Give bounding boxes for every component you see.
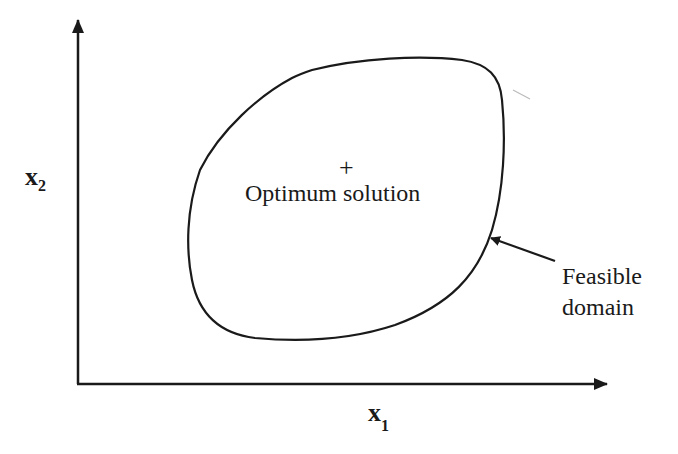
y-axis-variable: x — [25, 162, 38, 191]
x-axis-variable: x — [368, 398, 381, 427]
feasible-domain-pointer-arrow — [491, 238, 555, 261]
optimum-marker: + — [339, 153, 354, 183]
x-axis-subscript: 1 — [381, 417, 389, 434]
optimum-label: Optimum solution — [245, 180, 420, 207]
x-axis-label: x1 — [368, 398, 389, 428]
diagram-canvas — [0, 0, 678, 454]
y-axis-subscript: 2 — [38, 177, 46, 194]
feasible-domain-label-line2: domain — [562, 294, 634, 321]
feasible-domain-label-line1: Feasible — [562, 263, 642, 290]
stray-mark — [513, 90, 530, 99]
y-axis-label: x2 — [25, 162, 46, 192]
